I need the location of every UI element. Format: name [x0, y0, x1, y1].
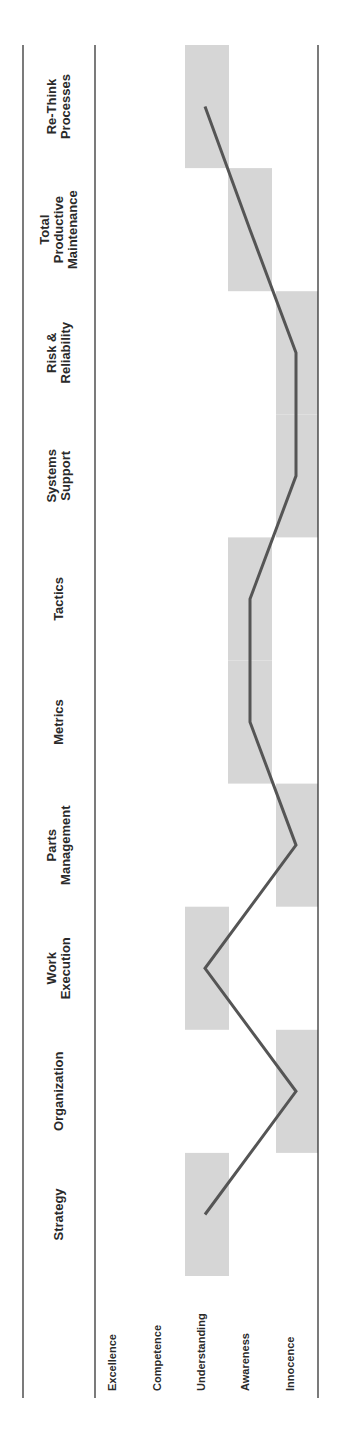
level-box [185, 1153, 229, 1276]
level-labels: ExcellenceCompetenceUnderstandingAwarene… [106, 1313, 296, 1391]
category-labels: StrategyOrganizationWorkExecutionPartsMa… [37, 74, 80, 1240]
category-label: PartsManagement [44, 805, 73, 885]
level-label: Awareness [239, 1333, 251, 1391]
level-label: Innocence [284, 1337, 296, 1391]
category-label: Re-ThinkProcesses [44, 74, 73, 139]
level-label: Understanding [195, 1313, 207, 1391]
maturity-chart: StrategyOrganizationWorkExecutionPartsMa… [0, 0, 339, 1454]
category-label: WorkExecution [44, 937, 73, 999]
category-label: Tactics [51, 577, 66, 621]
level-box [185, 907, 229, 1030]
level-box [185, 45, 229, 168]
level-label: Excellence [106, 1334, 118, 1391]
category-label: Strategy [51, 1188, 66, 1241]
category-label: Risk &Reliability [44, 321, 73, 383]
level-label: Competence [151, 1325, 163, 1391]
category-label: TotalProductiveMaintenance [37, 190, 80, 269]
category-label: SystemsSupport [44, 449, 73, 502]
category-label: Metrics [51, 699, 66, 745]
category-label: Organization [51, 1052, 66, 1132]
